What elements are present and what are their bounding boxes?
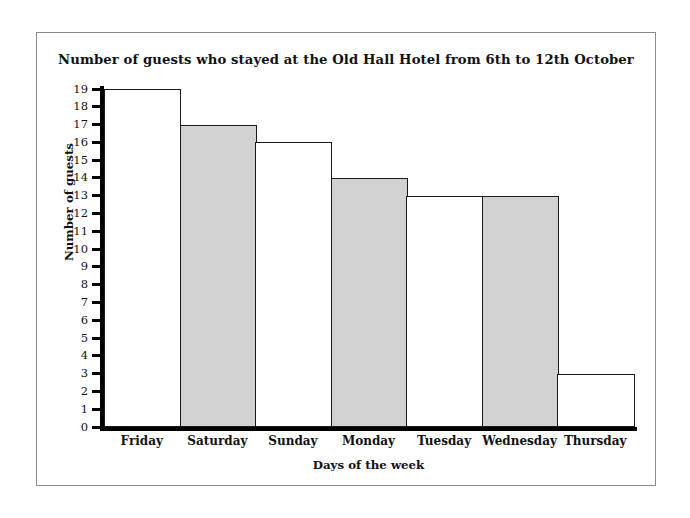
y-tick-label: 10	[62, 242, 88, 256]
bar-saturday	[180, 125, 257, 427]
x-axis-title: Days of the week	[104, 458, 633, 472]
x-label-tuesday: Tuesday	[406, 434, 482, 448]
bar-friday	[104, 89, 181, 427]
y-tick-mark	[92, 88, 101, 91]
x-label-monday: Monday	[331, 434, 407, 448]
bar-monday	[331, 178, 408, 427]
y-tick-label: 12	[62, 206, 88, 220]
bar-sunday	[255, 142, 332, 427]
x-label-wednesday: Wednesday	[482, 434, 558, 448]
y-tick-label: 19	[62, 82, 88, 96]
y-tick-label: 6	[62, 313, 88, 327]
x-label-friday: Friday	[104, 434, 180, 448]
y-tick-mark	[92, 141, 101, 144]
y-tick-label: 2	[62, 384, 88, 398]
y-tick-label: 16	[62, 135, 88, 149]
y-tick-mark	[92, 159, 101, 162]
bar-wednesday	[482, 196, 559, 427]
y-tick-mark	[92, 176, 101, 179]
x-axis-line	[100, 427, 637, 431]
y-tick-label: 8	[62, 277, 88, 291]
bar-tuesday	[406, 196, 483, 427]
bar-thursday	[557, 374, 634, 427]
y-tick-mark	[92, 372, 101, 375]
y-tick-mark	[92, 319, 101, 322]
y-tick-mark	[92, 194, 101, 197]
y-tick-label: 0	[62, 420, 88, 434]
y-tick-mark	[92, 105, 101, 108]
x-label-saturday: Saturday	[180, 434, 256, 448]
chart-page: Number of guests who stayed at the Old H…	[0, 0, 690, 518]
y-tick-mark	[92, 426, 101, 429]
y-tick-label: 11	[62, 224, 88, 238]
bars-group	[104, 86, 633, 427]
y-tick-mark	[92, 248, 101, 251]
y-tick-mark	[92, 230, 101, 233]
y-tick-mark	[92, 337, 101, 340]
y-tick-mark	[92, 301, 101, 304]
x-label-thursday: Thursday	[557, 434, 633, 448]
y-tick-label: 13	[62, 188, 88, 202]
y-tick-label: 15	[62, 153, 88, 167]
y-tick-label: 7	[62, 295, 88, 309]
y-tick-label: 3	[62, 366, 88, 380]
y-tick-label: 14	[62, 170, 88, 184]
y-tick-label: 5	[62, 331, 88, 345]
y-tick-mark	[92, 265, 101, 268]
chart-title: Number of guests who stayed at the Old H…	[36, 52, 656, 67]
y-tick-mark	[92, 283, 101, 286]
x-label-sunday: Sunday	[255, 434, 331, 448]
y-tick-mark	[92, 212, 101, 215]
y-tick-mark	[92, 354, 101, 357]
y-tick-label: 4	[62, 348, 88, 362]
y-tick-label: 9	[62, 259, 88, 273]
y-tick-label: 1	[62, 402, 88, 416]
y-tick-label: 18	[62, 99, 88, 113]
y-tick-mark	[92, 408, 101, 411]
y-tick-mark	[92, 123, 101, 126]
y-tick-label: 17	[62, 117, 88, 131]
y-tick-mark	[92, 390, 101, 393]
